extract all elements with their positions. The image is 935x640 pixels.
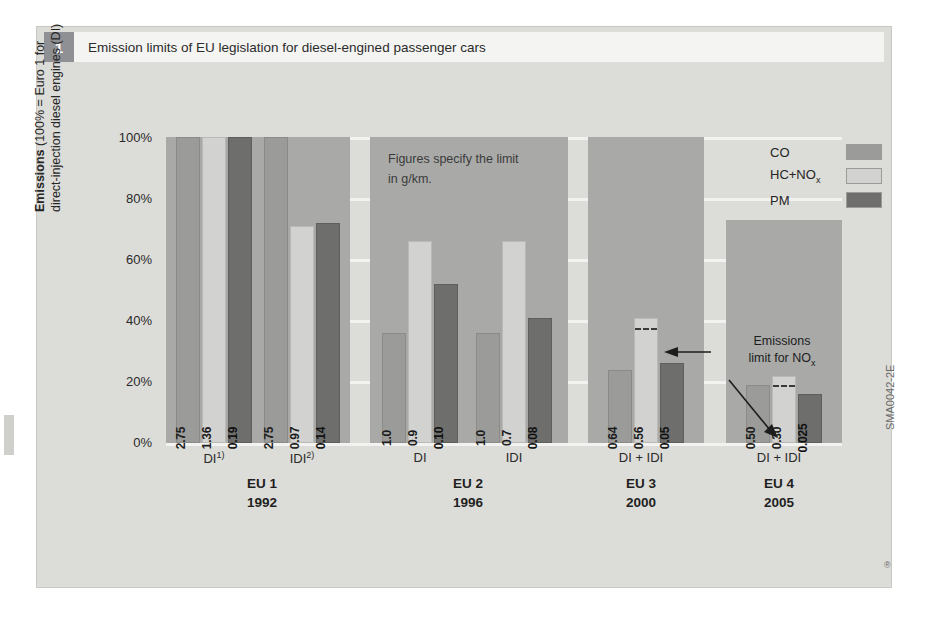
y-axis-label: Emissions (100% = Euro 1 for direct-inje…: [32, 0, 72, 212]
bar-eu3-pm: 0.05: [660, 363, 684, 443]
x-sublabel-text: IDI: [290, 451, 307, 466]
x-group-stage: EU 4: [764, 476, 794, 491]
units-note-line1: Figures specify the limit: [388, 152, 519, 166]
bar-eu2-di-hc: 0.9: [408, 241, 432, 443]
bar-value: 2.75: [262, 427, 276, 450]
figure-title: Emission limits of EU legislation for di…: [74, 32, 884, 62]
x-group-year: 1992: [247, 495, 277, 510]
x-group-stage: EU 3: [626, 476, 656, 491]
legend-swatch-co-icon: [846, 144, 882, 160]
screenshot-root: 1 Emission limits of EU legislation for …: [0, 0, 935, 640]
x-sublabel-text: DI: [203, 451, 216, 466]
bar-eu4-hc: 0.30: [772, 376, 796, 443]
units-note-line2: in g/km.: [388, 172, 432, 186]
nox-limit-line-eu3: [635, 328, 657, 330]
bar-value: 0.97: [288, 427, 302, 450]
x-group-eu2: EU 2 1996: [382, 474, 554, 512]
subgroup-eu1-di: 2.75 1.36 0.19: [174, 137, 254, 443]
footnote-marker-1: 1): [216, 450, 224, 460]
legend-item-pm: PM: [770, 188, 882, 212]
x-group-stage: EU 2: [453, 476, 483, 491]
bar-eu3-hc: 0.56: [634, 318, 658, 443]
x-group-eu1: EU 1 1992: [176, 474, 348, 512]
bar-eu1-di-hc: 1.36: [202, 137, 226, 443]
legend-nox-subscript: x: [816, 175, 821, 185]
page-edge-mark: [4, 415, 14, 455]
bar-eu2-idi-hc: 0.7: [502, 241, 526, 443]
chart-panel: Emissions (100% = Euro 1 for direct-inje…: [44, 74, 884, 574]
bar-value: 0.7: [500, 430, 514, 446]
x-sublabel-eu1-idi: IDI2): [262, 450, 342, 466]
plot-area: 100% 80% 60% 40% 20% 0% 2.75 1.36 0.19: [166, 137, 842, 443]
bar-eu2-di-pm: 0.10: [434, 284, 458, 443]
bar-value: 1.36: [200, 427, 214, 450]
group-panel-eu3: 0.64 0.56 0.05: [588, 137, 704, 443]
bar-eu3-co: 0.64: [608, 370, 632, 443]
legend-label-pm: PM: [770, 193, 846, 208]
legend-swatch-hc-nox-icon: [846, 168, 882, 184]
bar-value: 0.05: [658, 427, 672, 450]
y-axis-label-rest: (100% = Euro 1 for: [33, 41, 47, 150]
legend-label-hc-nox: HC+NOx: [770, 167, 846, 185]
bar-value: 0.9: [406, 430, 420, 446]
x-sublabel-eu3: DI + IDI: [596, 450, 686, 465]
x-group-stage: EU 1: [247, 476, 277, 491]
bar-value: 0.19: [226, 427, 240, 450]
group-panel-eu1: 2.75 1.36 0.19 2.75 0.97: [166, 137, 350, 443]
bar-value: 0.10: [432, 427, 446, 450]
y-tick-20: 20%: [92, 376, 152, 388]
bar-value: 1.0: [380, 430, 394, 446]
group-panel-eu4: 0.50 0.30 0.025: [726, 220, 842, 443]
x-sublabel-eu4: DI + IDI: [734, 450, 824, 465]
bar-eu2-di-co: 1.0: [382, 333, 406, 443]
x-group-year: 2005: [764, 495, 794, 510]
nox-annotation: Emissions limit for NOx: [712, 333, 852, 372]
bar-value: 0.64: [606, 427, 620, 450]
legend: CO HC+NOx PM: [770, 140, 882, 212]
x-group-eu4: EU 4 2005: [734, 474, 824, 512]
y-tick-60: 60%: [92, 254, 152, 266]
subgroup-eu1-idi: 2.75 0.97 0.14: [262, 137, 342, 443]
bar-value: 0.50: [744, 427, 758, 450]
bar-value: 0.08: [526, 427, 540, 450]
bar-eu4-pm: 0.025: [798, 394, 822, 443]
bar-eu1-idi-co: 2.75: [264, 137, 288, 443]
bar-eu1-idi-pm: 0.14: [316, 223, 340, 443]
bar-eu1-di-co: 2.75: [176, 137, 200, 443]
y-tick-40: 40%: [92, 315, 152, 327]
footnote-marker-2: 2): [306, 450, 314, 460]
bar-eu2-idi-co: 1.0: [476, 333, 500, 443]
y-tick-0: 0%: [92, 437, 152, 449]
x-sublabel-eu1-di: DI1): [174, 450, 254, 466]
x-group-eu3: EU 3 2000: [596, 474, 686, 512]
bar-eu2-idi-pm: 0.08: [528, 318, 552, 443]
bar-value: 0.30: [770, 427, 784, 450]
x-group-year: 1996: [453, 495, 483, 510]
legend-swatch-pm-icon: [846, 192, 882, 208]
nox-limit-line-eu4: [773, 385, 795, 387]
nox-annotation-text: limit for NO: [749, 351, 812, 365]
bar-eu1-di-pm: 0.19: [228, 137, 252, 443]
bar-eu1-idi-hc: 0.97: [290, 226, 314, 443]
bar-value: 0.56: [632, 427, 646, 450]
y-axis-label-line2: direct-injection diesel engines (DI): [49, 24, 63, 212]
x-group-year: 2000: [626, 495, 656, 510]
nox-subscript: x: [811, 358, 816, 368]
figure-source-code: SMA0042-2E: [884, 365, 896, 430]
units-note: Figures specify the limit in g/km.: [388, 149, 568, 189]
y-axis-label-bold: Emissions: [33, 149, 47, 212]
legend-item-hc-nox: HC+NOx: [770, 164, 882, 188]
registered-mark-icon: ®: [884, 560, 891, 570]
legend-item-co: CO: [770, 140, 882, 164]
legend-label-co: CO: [770, 145, 846, 160]
subgroup-eu4: 0.50 0.30 0.025: [744, 220, 828, 443]
nox-annotation-line2: limit for NOx: [749, 351, 816, 365]
subgroup-eu3: 0.64 0.56 0.05: [606, 137, 690, 443]
x-sublabel-eu2-di: DI: [380, 450, 460, 465]
figure-caption: 1 Emission limits of EU legislation for …: [44, 32, 884, 62]
nox-annotation-line1: Emissions: [754, 334, 811, 348]
bar-value: 0.14: [314, 427, 328, 450]
y-tick-100: 100%: [92, 132, 152, 144]
y-tick-80: 80%: [92, 193, 152, 205]
bar-value: 0.025: [796, 423, 810, 452]
